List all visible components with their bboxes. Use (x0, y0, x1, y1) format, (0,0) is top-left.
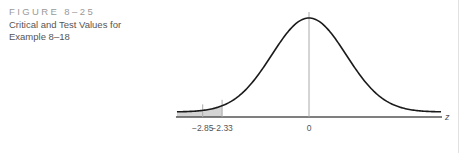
tick-labels: −2.85−2.330 (192, 123, 312, 133)
normal-curve-chart: z −2.85−2.330 (0, 0, 475, 153)
z-axis-label: z (444, 112, 450, 122)
vertical-markers (203, 12, 309, 117)
tick-label: 0 (307, 123, 312, 133)
tick-label: −2.33 (211, 123, 233, 133)
